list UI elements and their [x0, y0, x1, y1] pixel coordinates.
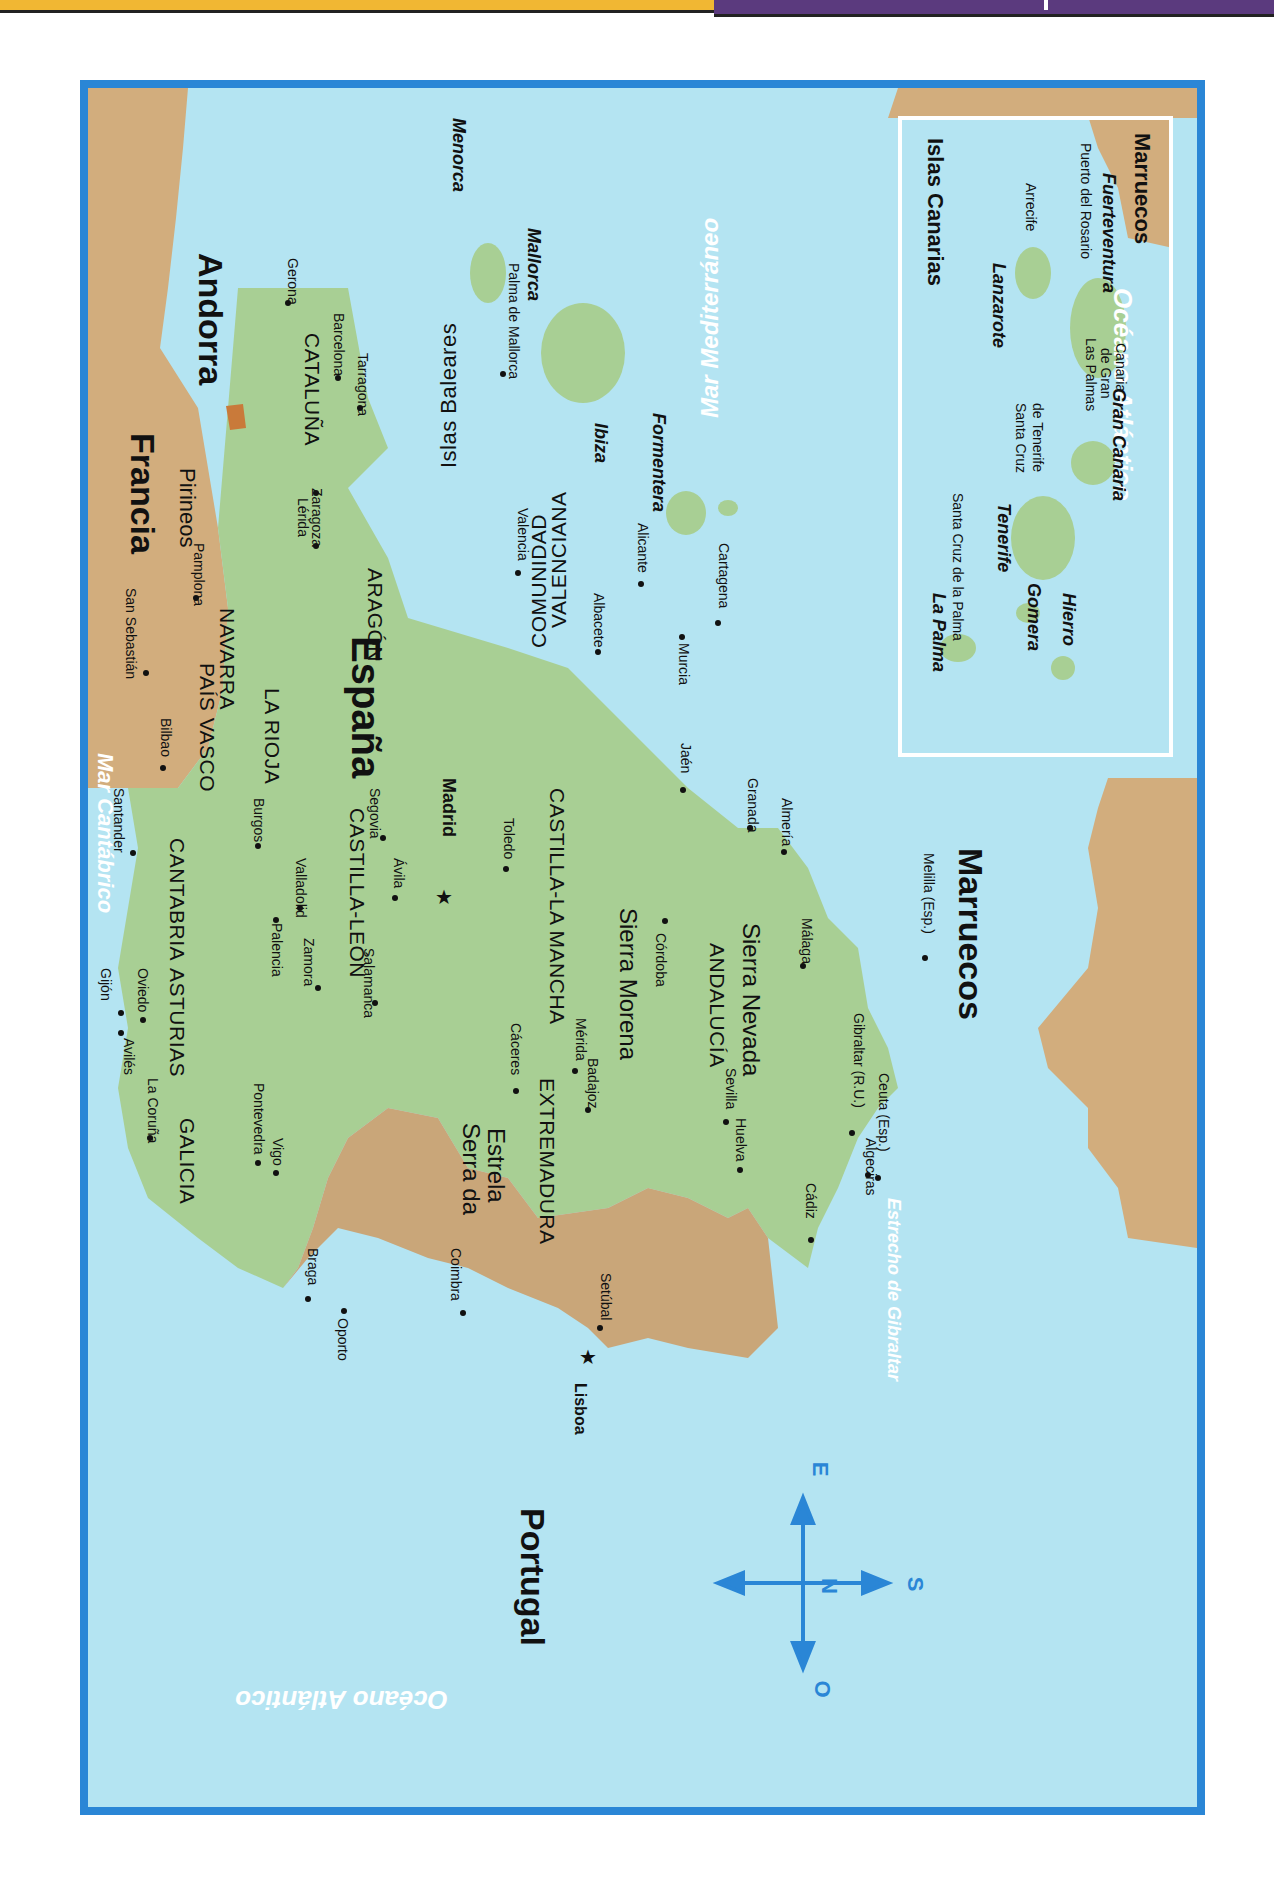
- dot-gijon: [118, 1010, 124, 1016]
- label-sc-tenerife-2: de Tenerife: [1031, 403, 1045, 472]
- label-aviles: Avilés: [122, 1038, 136, 1075]
- dot-burgos: [255, 843, 261, 849]
- label-cadiz: Cádiz: [804, 1183, 818, 1219]
- label-lerida: Lérida: [296, 498, 310, 537]
- dot-oporto: [341, 1308, 347, 1314]
- label-gomera: Gomera: [1025, 583, 1043, 651]
- label-alicante: Alicante: [636, 523, 650, 573]
- label-braga: Braga: [306, 1248, 320, 1285]
- dot-bilbao: [160, 765, 166, 771]
- compass-west: O: [811, 1680, 833, 1697]
- label-zamora: Zamora: [302, 938, 316, 986]
- label-mallorca: Mallorca: [525, 228, 543, 301]
- label-segovia: Segovia: [368, 788, 382, 839]
- label-huelva: Huelva: [734, 1118, 748, 1162]
- dot-toledo: [503, 866, 509, 872]
- label-cantabria: CANTABRIA: [167, 838, 188, 961]
- label-oviedo: Oviedo: [136, 968, 150, 1012]
- label-jaen: Jaén: [679, 743, 693, 773]
- label-valladolid: Valladolid: [294, 858, 308, 918]
- dot-jaen: [680, 787, 686, 793]
- label-san-sebastian: San Sebastián: [124, 588, 138, 679]
- morocco-land-bottom: [1038, 778, 1197, 1248]
- label-castilla-la-mancha: CASTILLA-LA MANCHA: [547, 788, 568, 1025]
- label-almeria: Almería: [780, 798, 794, 846]
- label-gibraltar: Gibraltar (R.U.): [852, 1013, 866, 1108]
- label-pirineos: Pirineos: [176, 468, 198, 547]
- label-aragon: ARAGÓN: [365, 568, 386, 662]
- label-serra-da-estrela-1: Serra da: [459, 1123, 483, 1215]
- label-oceano-atlantico: Océano Atlántico: [235, 1687, 448, 1713]
- label-arrecife: Arrecife: [1024, 183, 1038, 231]
- dot-caceres: [513, 1088, 519, 1094]
- label-burgos: Burgos: [252, 798, 266, 842]
- label-islas-baleares: Islas Baleares: [438, 323, 460, 468]
- dot-merida: [572, 1068, 578, 1074]
- dot-braga: [305, 1296, 311, 1302]
- mallorca-island: [541, 303, 625, 403]
- capital-star-lisboa-icon: ★: [579, 1347, 597, 1367]
- dot-pontevedra: [255, 1160, 261, 1166]
- label-bilbao: Bilbao: [159, 718, 173, 757]
- label-cordoba: Córdoba: [654, 933, 668, 987]
- label-sevilla: Sevilla: [724, 1068, 738, 1109]
- label-asturias: ASTURIAS: [167, 968, 188, 1077]
- morocco-land-top: [888, 88, 1197, 118]
- menorca-island: [470, 243, 506, 303]
- compass-south: S: [904, 1577, 926, 1592]
- map-frame: Francia Andorra España Portugal Marrueco…: [80, 80, 1205, 1815]
- compass-east: E: [809, 1462, 831, 1477]
- formentera-island: [718, 500, 738, 516]
- label-cartagena: Cartagena: [717, 543, 731, 608]
- label-andorra: Andorra: [194, 253, 228, 385]
- label-vigo: Vigo: [271, 1138, 285, 1166]
- label-malaga: Málaga: [800, 918, 814, 964]
- label-la-coruna: La Coruña: [146, 1078, 160, 1143]
- label-marruecos-inset: Marruecos: [1131, 133, 1153, 244]
- label-ceuta: Ceuta (Esp.): [877, 1073, 891, 1152]
- label-zaragoza: Zaragoza: [310, 488, 324, 547]
- label-puerto-rosario: Puerto del Rosario: [1079, 143, 1093, 259]
- label-gran-canaria: Gran Canaria: [1110, 388, 1128, 501]
- label-tenerife: Tenerife: [995, 503, 1013, 572]
- dot-oviedo: [140, 1017, 146, 1023]
- label-hierro: Hierro: [1060, 593, 1078, 646]
- label-setubal: Setúbal: [599, 1273, 613, 1320]
- label-avila: Ávila: [392, 858, 406, 888]
- dot-albacete: [595, 649, 601, 655]
- label-sierra-morena: Sierra Morena: [616, 908, 640, 1060]
- dot-coimbra: [460, 1310, 466, 1316]
- label-lp-3: Canaria: [1114, 343, 1128, 392]
- label-palencia: Palencia: [270, 923, 284, 977]
- label-lp-2: de Gran: [1099, 348, 1113, 399]
- dot-setubal: [597, 1325, 603, 1331]
- dot-cartagena: [715, 620, 721, 626]
- header-mark: [1044, 0, 1048, 10]
- label-oporto: Oporto: [336, 1318, 350, 1361]
- capital-star-madrid-icon: ★: [435, 887, 453, 907]
- label-palma: Palma de Mallorca: [507, 263, 521, 379]
- label-lp-1: Las Palmas: [1084, 338, 1098, 411]
- label-fuerteventura: Fuerteventura: [1100, 173, 1118, 293]
- label-pais-vasco: PAÍS VASCO: [197, 663, 218, 792]
- label-navarra: NAVARRA: [217, 608, 238, 710]
- compass-rose: [718, 1498, 888, 1668]
- label-marruecos: Marruecos: [954, 848, 988, 1020]
- label-valencia: Valencia: [516, 508, 530, 561]
- label-sc-la-palma: Santa Cruz de la Palma: [951, 493, 965, 641]
- header-bar-yellow: [0, 0, 714, 13]
- dot-aviles: [118, 1030, 124, 1036]
- label-comunidad: COMUNIDAD: [528, 514, 549, 648]
- dot-valencia: [515, 570, 521, 576]
- label-gerona: Gerona: [286, 258, 300, 305]
- dot-gibraltar: [849, 1130, 855, 1136]
- label-lanzarote: Lanzarote: [990, 263, 1008, 348]
- label-sierra-nevada: Sierra Nevada: [739, 923, 763, 1076]
- dot-santander: [130, 850, 136, 856]
- label-extremadura: EXTREMADURA: [537, 1078, 558, 1245]
- label-portugal: Portugal: [516, 1508, 550, 1646]
- label-pontevedra: Pontevedra: [252, 1083, 266, 1155]
- label-valenciana: VALENCIANA: [548, 492, 569, 629]
- label-lisboa: Lisboa: [572, 1383, 588, 1435]
- header-bar-purple: [714, 0, 1274, 17]
